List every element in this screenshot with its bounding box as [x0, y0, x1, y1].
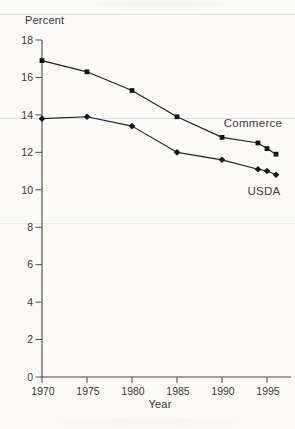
y-tick-label: 6 — [27, 258, 33, 270]
data-point-diamond — [39, 115, 46, 122]
y-tick-label: 10 — [21, 184, 33, 196]
y-tick-label: 8 — [27, 221, 33, 233]
y-tick-label: 4 — [27, 296, 33, 308]
data-point-diamond — [129, 123, 136, 130]
data-point-square — [130, 88, 135, 93]
data-point-diamond — [255, 166, 262, 173]
data-point-diamond — [264, 168, 271, 175]
data-point-square — [85, 69, 90, 74]
data-point-square — [256, 141, 261, 146]
data-point-diamond — [273, 172, 280, 179]
data-point-square — [274, 152, 279, 157]
data-point-diamond — [219, 157, 226, 164]
data-point-square — [175, 114, 180, 119]
data-point-square — [265, 146, 270, 151]
y-tick-label: 12 — [21, 146, 33, 158]
data-point-square — [40, 58, 45, 63]
series-label-commerce: Commerce — [224, 117, 283, 129]
data-point-square — [220, 135, 225, 140]
y-tick-label: 2 — [27, 333, 33, 345]
x-tick-label: 1975 — [76, 385, 100, 397]
x-tick-label: 1985 — [166, 385, 190, 397]
y-tick-label: 18 — [21, 34, 33, 46]
axes — [42, 40, 291, 377]
y-tick-label: 14 — [21, 109, 33, 121]
data-point-diamond — [84, 113, 91, 120]
series-label-usda: USDA — [247, 185, 280, 197]
x-tick-label: 1980 — [121, 385, 145, 397]
data-point-diamond — [174, 149, 181, 156]
line-chart: 024681012141618197019751980198519901995C… — [0, 0, 295, 429]
x-tick-label: 1995 — [256, 385, 280, 397]
series-line-commerce — [42, 61, 276, 155]
x-tick-label: 1970 — [31, 385, 55, 397]
x-tick-label: 1990 — [211, 385, 235, 397]
figure-canvas: Percent Year 024681012141618197019751980… — [0, 0, 295, 429]
y-tick-label: 0 — [27, 371, 33, 383]
y-tick-label: 16 — [21, 71, 33, 83]
